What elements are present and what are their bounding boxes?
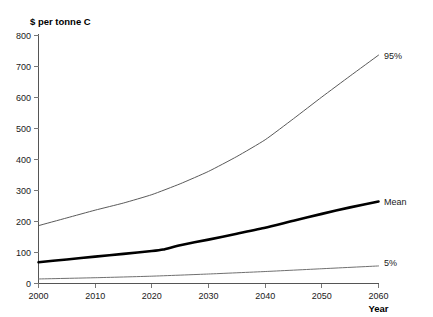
y-tick-label-100: 100 bbox=[16, 248, 31, 258]
x-tick-label-2010: 2010 bbox=[85, 291, 105, 301]
x-tick-label-2060: 2060 bbox=[368, 291, 388, 301]
series-label-95pct: 95% bbox=[384, 51, 402, 61]
series-label-5pct: 5% bbox=[384, 258, 397, 268]
series-line-mean bbox=[39, 201, 379, 262]
x-tick-label-2040: 2040 bbox=[255, 291, 275, 301]
series-line-95pct bbox=[39, 55, 379, 226]
y-tick-label-700: 700 bbox=[16, 62, 31, 72]
series-label-mean: Mean bbox=[384, 197, 407, 207]
y-tick-label-800: 800 bbox=[16, 31, 31, 41]
series-line-5pct bbox=[39, 266, 379, 279]
y-tick-label-300: 300 bbox=[16, 186, 31, 196]
x-tick-label-2030: 2030 bbox=[198, 291, 218, 301]
y-axis-title: $ per tonne C bbox=[30, 16, 91, 27]
y-tick-label-0: 0 bbox=[26, 279, 31, 289]
x-axis-title: Year bbox=[368, 303, 388, 314]
y-axis-tick-labels: 800 700 600 500 400 300 200 100 0 bbox=[16, 31, 31, 289]
x-tick-label-2000: 2000 bbox=[28, 291, 48, 301]
x-tick-label-2020: 2020 bbox=[142, 291, 162, 301]
y-tick-label-500: 500 bbox=[16, 124, 31, 134]
line-chart: $ per tonne C 800 700 600 500 400 300 20… bbox=[0, 0, 433, 317]
x-tick-label-2050: 2050 bbox=[312, 291, 332, 301]
y-tick-label-600: 600 bbox=[16, 93, 31, 103]
y-axis-ticks bbox=[34, 35, 39, 283]
y-tick-label-200: 200 bbox=[16, 217, 31, 227]
x-axis-ticks bbox=[39, 284, 379, 289]
x-axis-tick-labels: 2000 2010 2020 2030 2040 2050 2060 bbox=[28, 291, 388, 301]
y-tick-label-400: 400 bbox=[16, 155, 31, 165]
chart-page: $ per tonne C 800 700 600 500 400 300 20… bbox=[0, 0, 433, 317]
series-group bbox=[39, 55, 379, 279]
